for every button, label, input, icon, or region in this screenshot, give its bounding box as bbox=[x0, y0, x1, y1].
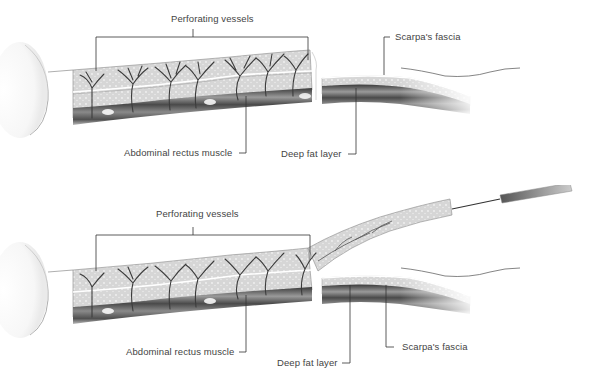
label-abdominal-rectus-muscle: Abdominal rectus muscle bbox=[126, 346, 234, 357]
abdominal-wall-illustration-bottom bbox=[0, 185, 599, 369]
panel-top: Perforating vessels Scarpa's fascia Abdo… bbox=[0, 0, 599, 185]
label-deep-fat-layer: Deep fat layer bbox=[281, 148, 342, 159]
label-deep-fat-layer: Deep fat layer bbox=[277, 357, 338, 368]
label-perforating-vessels: Perforating vessels bbox=[171, 13, 254, 24]
elevated-flap bbox=[308, 199, 452, 271]
label-abdominal-rectus-muscle: Abdominal rectus muscle bbox=[124, 147, 232, 158]
panel-bottom: Perforating vessels Abdominal rectus mus… bbox=[0, 185, 599, 369]
label-scarpas-fascia: Scarpa's fascia bbox=[402, 341, 468, 352]
label-perforating-vessels: Perforating vessels bbox=[156, 208, 239, 219]
surgical-instrument bbox=[452, 185, 572, 209]
label-scarpas-fascia: Scarpa's fascia bbox=[395, 31, 461, 42]
